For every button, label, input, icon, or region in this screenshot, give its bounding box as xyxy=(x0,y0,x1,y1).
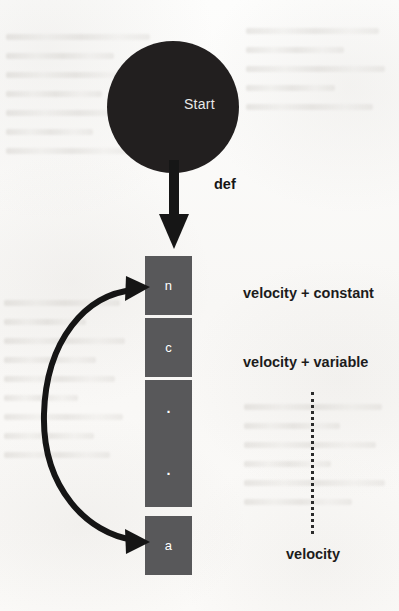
stack-cell-n[interactable]: n xyxy=(145,256,192,315)
curved-double-arrow-icon xyxy=(30,268,152,560)
label-velocity: velocity xyxy=(263,546,363,562)
def-edge-label: def xyxy=(214,176,236,192)
down-arrow-icon xyxy=(158,160,190,252)
activation-record-diagram: Start def n c · · a velocity + constant … xyxy=(0,0,399,611)
stack-cell-c[interactable]: c xyxy=(145,318,192,377)
label-velocity-constant: velocity + constant xyxy=(243,285,374,301)
stack-cell-ellipsis-1[interactable]: · xyxy=(145,380,192,445)
start-node[interactable] xyxy=(106,40,240,174)
stack-cell-label: a xyxy=(165,538,172,553)
vertical-dotted-line-icon xyxy=(311,392,314,534)
label-velocity-variable: velocity + variable xyxy=(243,354,368,370)
start-circle-icon xyxy=(106,40,240,174)
stack-cell-ellipsis-2[interactable]: · xyxy=(145,442,192,507)
stack-cell-label: c xyxy=(165,340,172,355)
stack-cell-a[interactable]: a xyxy=(145,516,192,575)
stack-cell-label: n xyxy=(165,278,172,293)
